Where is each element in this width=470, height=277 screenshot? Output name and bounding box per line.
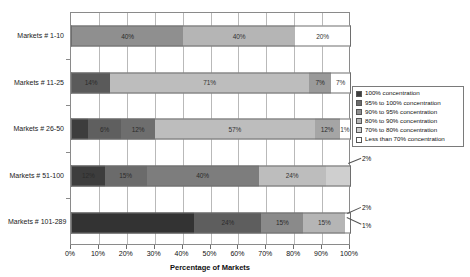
segment-label: 7% — [316, 80, 325, 87]
callout-label-2pct-bar4: 2% — [362, 155, 371, 162]
plot-area: 40% 40% 20% 14% 71% 7% — [70, 12, 350, 245]
ylabel-markets-26-50: Markets # 26-50 — [8, 125, 64, 132]
bar-group-markets-101-289: 44% 24% 15% 15% 2% — [71, 199, 351, 246]
legend-item-less-than-70[interactable]: Less than 70% concentration — [356, 135, 461, 144]
x-tick — [293, 245, 294, 249]
bar-segment[interactable]: 15% — [261, 212, 303, 233]
legend-label: 80% to 90% concentration — [365, 118, 437, 124]
bar-segment[interactable]: 14% — [71, 72, 110, 93]
legend-swatch-icon — [356, 109, 362, 115]
bar-track: 14% 71% 7% 7% — [71, 72, 351, 93]
ylabel-markets-1-10: Markets # 1-10 — [8, 32, 64, 39]
bar-segment[interactable]: 40% — [183, 26, 295, 47]
segment-label: 15% — [119, 173, 132, 180]
bar-segment[interactable]: 71% — [110, 72, 309, 93]
bar-segment[interactable]: 40% — [147, 166, 259, 187]
stacked-bar-chart: 40% 40% 20% 14% 71% 7% — [0, 0, 470, 277]
x-tick — [321, 245, 322, 249]
legend-swatch-icon — [356, 137, 362, 143]
bar-segment[interactable]: 15% — [303, 212, 345, 233]
segment-label: 40% — [121, 33, 134, 40]
legend-label: 95% to 100% concentration — [365, 100, 441, 106]
legend-label: 90% to 95% concentration — [365, 109, 437, 115]
bar-segment[interactable]: 24% — [259, 166, 326, 187]
bar-segment[interactable]: 20% — [295, 26, 351, 47]
legend-swatch-icon — [356, 100, 362, 106]
x-tick-label-40: 40% — [175, 250, 189, 257]
x-tick — [98, 245, 99, 249]
segment-label: 12% — [321, 126, 334, 133]
bar-group-markets-51-100: 12% 15% 40% 24% 2% — [71, 153, 351, 200]
bar-group-markets-26-50: 6% 6% 12% 57% 12% 1% — [71, 106, 351, 153]
ylabel-markets-51-100: Markets # 51-100 — [8, 172, 64, 179]
x-tick — [182, 245, 183, 249]
segment-label: 6% — [100, 126, 109, 133]
segment-label: 24% — [221, 219, 234, 226]
y-tick — [66, 59, 70, 60]
y-tick — [66, 152, 70, 153]
bar-track: 44% 24% 15% 15% 2% — [71, 212, 351, 233]
bar-segment[interactable]: 2% — [345, 212, 351, 233]
segment-label: 57% — [228, 126, 241, 133]
segment-label: 14% — [85, 80, 98, 87]
x-axis-title: Percentage of Markets — [70, 263, 350, 272]
bar-segment[interactable]: 12% — [71, 166, 105, 187]
bar-segment[interactable]: 1% — [340, 119, 351, 140]
segment-label: 15% — [318, 219, 331, 226]
x-tick — [210, 245, 211, 249]
legend: 100% concentration 95% to 100% concentra… — [352, 86, 464, 147]
segment-label: 40% — [233, 33, 246, 40]
bar-segment[interactable]: 24% — [194, 212, 261, 233]
segment-label: 15% — [276, 219, 289, 226]
bar-group-markets-11-25: 14% 71% 7% 7% — [71, 60, 351, 107]
segment-label: 40% — [196, 173, 209, 180]
bar-segment[interactable]: 40% — [71, 26, 183, 47]
legend-item-90-95[interactable]: 90% to 95% concentration — [356, 107, 461, 116]
y-tick — [66, 105, 70, 106]
x-tick-label-0: 0% — [65, 250, 75, 257]
bar-track: 12% 15% 40% 24% 2% — [71, 166, 351, 187]
x-tick-label-90: 90% — [314, 250, 328, 257]
bar-track: 6% 6% 12% 57% 12% 1% — [71, 119, 351, 140]
x-tick-label-80: 80% — [286, 250, 300, 257]
legend-label: Less than 70% concentration — [365, 136, 445, 142]
segment-label: 1% — [340, 126, 349, 133]
x-tick — [126, 245, 127, 249]
legend-item-100pct[interactable]: 100% concentration — [356, 89, 461, 98]
x-tick-label-20: 20% — [119, 250, 133, 257]
legend-swatch-icon — [356, 127, 362, 133]
bar-segment[interactable]: 2% — [326, 166, 351, 187]
ylabel-markets-101-289: Markets # 101-289 — [8, 218, 64, 225]
bar-segment[interactable]: 7% — [331, 72, 351, 93]
x-tick-label-30: 30% — [147, 250, 161, 257]
bar-track: 40% 40% 20% — [71, 26, 351, 47]
segment-label: 12% — [132, 126, 145, 133]
callout-label-1pct-bar5: 1% — [362, 222, 371, 229]
segment-label: 12% — [82, 173, 95, 180]
bar-segment[interactable]: 12% — [121, 119, 155, 140]
bar-segment[interactable]: 6% — [71, 119, 88, 140]
legend-label: 100% concentration — [365, 90, 420, 96]
ylabel-markets-11-25: Markets # 11-25 — [8, 79, 64, 86]
bar-segment[interactable]: 15% — [105, 166, 147, 187]
legend-label: 70% to 80% concentration — [365, 127, 437, 133]
bar-segment[interactable]: 6% — [88, 119, 122, 140]
x-tick — [70, 245, 71, 249]
bar-segment[interactable]: 12% — [315, 119, 340, 140]
bar-segment[interactable]: 57% — [155, 119, 315, 140]
legend-item-95-100[interactable]: 95% to 100% concentration — [356, 98, 461, 107]
legend-item-70-80[interactable]: 70% to 80% concentration — [356, 126, 461, 135]
segment-label: 24% — [286, 173, 299, 180]
x-tick — [237, 245, 238, 249]
x-tick — [265, 245, 266, 249]
y-tick — [66, 198, 70, 199]
bar-group-markets-1-10: 40% 40% 20% — [71, 13, 351, 60]
callout-label-2pct-bar5: 2% — [362, 204, 371, 211]
segment-label: 71% — [203, 80, 216, 87]
bar-segment[interactable]: 7% — [309, 72, 331, 93]
legend-swatch-icon — [356, 118, 362, 124]
x-tick-label-60: 60% — [230, 250, 244, 257]
segment-label: 7% — [336, 80, 345, 87]
bar-segment[interactable]: 44% — [71, 212, 194, 233]
legend-item-80-90[interactable]: 80% to 90% concentration — [356, 117, 461, 126]
